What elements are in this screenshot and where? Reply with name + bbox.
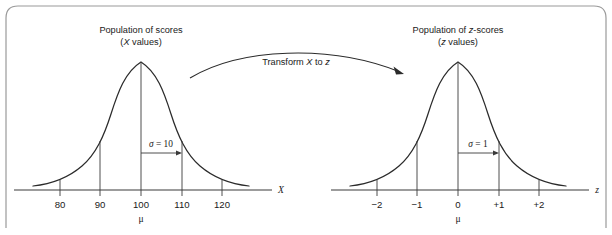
panel-z-title-line2: (z values) bbox=[438, 37, 478, 47]
z-tick-label-minus2: −2 bbox=[372, 199, 383, 210]
x-tick-label-80: 80 bbox=[55, 199, 66, 210]
x-tick-label-110: 110 bbox=[174, 199, 189, 210]
x-axis-label: X bbox=[277, 184, 285, 195]
figure-canvas: Population of scores (X values) σ = 10 X bbox=[0, 0, 612, 235]
z-tick-label-0: 0 bbox=[455, 199, 460, 210]
z-sigma-arrow-head bbox=[493, 150, 499, 155]
x-mean-label: μ bbox=[138, 213, 143, 224]
z-tick-label-plus2: +2 bbox=[534, 199, 545, 210]
z-score-transformation-figure: Population of scores (X values) σ = 10 X bbox=[0, 0, 612, 235]
x-tick-label-120: 120 bbox=[214, 199, 230, 210]
transform-arrow-head bbox=[394, 67, 405, 75]
z-sigma-label: σ = 1 bbox=[468, 139, 488, 149]
panel-x-title-line2: (X values) bbox=[120, 37, 161, 47]
panel-z-title-line1: Population of z-scores bbox=[413, 25, 504, 35]
figure-frame bbox=[6, 6, 606, 228]
transform-arrow-label: Transform X to z bbox=[262, 57, 330, 67]
panel-x-title-line1: Population of scores bbox=[99, 25, 183, 35]
panel-z-distribution: Population of z-scores (z values) σ = 1 … bbox=[331, 25, 599, 224]
x-tick-label-100: 100 bbox=[133, 199, 149, 210]
z-axis-label: z bbox=[594, 184, 599, 195]
panel-x-distribution: Population of scores (X values) σ = 10 X bbox=[14, 25, 285, 224]
x-tick-label-90: 90 bbox=[95, 199, 106, 210]
transform-arrow-group: Transform X to z bbox=[190, 53, 404, 78]
z-tick-label-plus1: +1 bbox=[494, 199, 505, 210]
z-tick-label-minus1: −1 bbox=[412, 199, 423, 210]
x-sigma-arrow-head bbox=[176, 150, 182, 155]
z-mean-label: μ bbox=[455, 213, 460, 224]
x-sigma-label: σ = 10 bbox=[149, 139, 173, 149]
